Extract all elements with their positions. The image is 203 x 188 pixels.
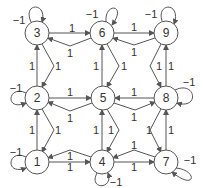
edge-5-2 <box>48 102 92 111</box>
weight-2-1: 1 <box>55 125 61 136</box>
edge-9-6 <box>113 38 155 45</box>
loop-weight-1: −1 <box>10 147 23 158</box>
weight-5-6: 1 <box>93 61 99 72</box>
loop-weight-2: −1 <box>10 83 23 94</box>
weight-2-5: 1 <box>67 87 73 98</box>
weight-4-5: 1 <box>93 125 99 136</box>
node-6-label: 6 <box>99 27 106 39</box>
weight-3-2: 1 <box>55 61 61 72</box>
loop-weight-8: −1 <box>183 77 196 88</box>
node-4-label: 4 <box>99 156 106 168</box>
weight-2-3: 1 <box>29 61 35 72</box>
self-loop-3 <box>29 7 43 22</box>
edge-5-8 <box>114 102 155 110</box>
weight-7-4: 1 <box>131 140 137 151</box>
edge-6-5 <box>107 44 119 87</box>
self-loop-4 <box>95 173 109 186</box>
loop-weight-9: −1 <box>145 9 158 20</box>
weight-9-8: 1 <box>156 61 162 72</box>
node-9-label: 9 <box>163 27 170 39</box>
weight-6-5: 1 <box>121 61 127 72</box>
weight-9-6: 1 <box>131 47 137 58</box>
node-8-label: 8 <box>163 92 170 104</box>
node-3-label: 3 <box>34 27 41 39</box>
weight-3-6: 1 <box>69 23 75 34</box>
node-5-label: 5 <box>100 92 107 104</box>
loop-weight-6: −1 <box>86 9 99 20</box>
weight-5-8: 1 <box>131 112 137 123</box>
edge-6-3 <box>48 38 91 46</box>
weight-1-4: 1 <box>67 162 73 173</box>
graph-diagram: 1 2 3 4 5 6 7 8 9 1 1 1 1 1 1 1 1 1 1 1 … <box>0 0 203 187</box>
weight-5-2: 1 <box>67 113 73 124</box>
edge-7-4 <box>113 150 155 158</box>
loop-weight-7: −1 <box>184 155 197 166</box>
node-1-label: 1 <box>34 156 41 168</box>
weight-4-1: 1 <box>67 151 73 162</box>
edge-2-1 <box>42 109 54 152</box>
weight-1-2: 1 <box>29 125 35 136</box>
weight-6-3: 1 <box>67 48 73 59</box>
weight-8-7: 1 <box>146 125 152 136</box>
node-2-label: 2 <box>34 92 41 104</box>
node-7-label: 7 <box>163 156 170 168</box>
weight-8-9: 1 <box>168 61 174 72</box>
weight-6-9: 1 <box>131 22 137 33</box>
weight-4-7: 1 <box>131 162 137 173</box>
loop-weight-3: −1 <box>13 15 26 26</box>
weight-5-4: 1 <box>108 125 114 136</box>
loop-weight-4: −1 <box>110 177 123 188</box>
weight-7-8: 1 <box>168 125 174 136</box>
weight-8-5: 1 <box>131 87 137 98</box>
edge-3-2 <box>42 44 54 87</box>
